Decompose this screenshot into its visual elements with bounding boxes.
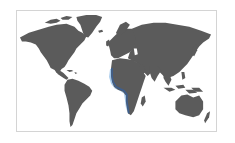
north-america <box>20 24 86 73</box>
central-america <box>57 71 69 80</box>
caribbean-islands <box>67 70 78 74</box>
world-map-svg <box>17 11 216 131</box>
india <box>150 66 162 82</box>
arctic-islands <box>45 16 73 24</box>
south-america <box>65 79 93 127</box>
indonesia <box>164 85 198 94</box>
iceland <box>98 30 103 33</box>
australia <box>175 95 203 118</box>
philippines <box>181 72 185 80</box>
madagascar <box>141 96 146 107</box>
world-map <box>16 10 217 132</box>
new-zealand <box>204 111 210 123</box>
